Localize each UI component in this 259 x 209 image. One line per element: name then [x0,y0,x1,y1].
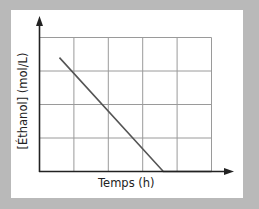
x-axis-label: Temps (h) [98,176,155,190]
x-axis [39,168,234,175]
x-axis-arrow-icon [224,168,234,175]
y-axis-label: [Éthanol] (mol/L) [16,46,30,156]
data-line [59,58,211,172]
y-axis [36,16,43,172]
y-axis-arrow-icon [36,16,43,26]
grid [40,38,212,172]
